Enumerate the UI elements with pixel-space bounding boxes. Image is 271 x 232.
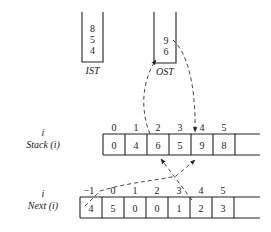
next-index: −1 [84,185,95,196]
next-row-label: Next (i) [27,200,59,212]
next-cell: 4 [89,203,94,214]
ost-stack: 9 6 OST [154,12,176,77]
ost-value: 9 [164,35,169,46]
ist-value: 4 [90,45,95,56]
stack-linked-list-diagram: 8 5 4 IST 9 6 OST i Stack (i) 0 1 2 3 4 … [0,0,271,232]
stack-cell: 4 [134,140,139,151]
stack-array: 0 4 6 5 9 8 [103,134,260,155]
ist-stack: 8 5 4 IST [82,12,103,76]
stack-row-label: Stack (i) [26,139,60,151]
stack-index: 5 [222,122,227,133]
stack-cell: 5 [178,140,183,151]
next-cell: 1 [177,203,182,214]
arrow-stack-to-ost [144,60,156,134]
next-cell: 0 [133,203,138,214]
next-index: 1 [133,185,138,196]
stack-cell: 6 [156,140,161,151]
stack-cell: 8 [222,140,227,151]
next-cell: 5 [111,203,116,214]
next-index: 2 [155,185,160,196]
next-array: 4 5 0 0 1 2 3 [80,197,260,218]
ost-value: 6 [164,46,169,57]
stack-index: 4 [200,122,205,133]
next-index: 3 [177,185,182,196]
stack-index: 2 [156,122,161,133]
ist-label: IST [85,65,101,76]
stack-cell: 9 [200,140,205,151]
stack-indices: 0 1 2 3 4 5 [112,122,227,133]
next-index: 5 [221,185,226,196]
stack-index: 1 [134,122,139,133]
ist-value: 8 [90,23,95,34]
next-index: 4 [199,185,204,196]
next-cell: 2 [199,203,204,214]
ist-value: 5 [90,34,95,45]
next-cell: 0 [155,203,160,214]
next-index-label: i [42,188,45,199]
stack-index: 0 [112,122,117,133]
next-indices: −1 0 1 2 3 4 5 [84,185,226,196]
stack-index-label: i [42,127,45,138]
next-cell: 3 [221,203,226,214]
stack-index: 3 [178,122,183,133]
ost-label: OST [156,66,175,77]
stack-cell: 0 [112,140,117,151]
